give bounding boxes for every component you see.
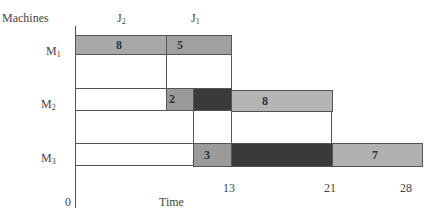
task-duration: 3 (204, 148, 210, 163)
task-duration: 8 (262, 94, 268, 109)
connector-line (193, 111, 194, 143)
blocked-m3 (231, 143, 333, 167)
task-m3-j1: 3 (193, 143, 232, 167)
task-duration: 7 (372, 148, 378, 163)
task-duration: 8 (116, 38, 122, 53)
time-tick-28: 28 (400, 181, 412, 196)
task-m2-j1: 2 (166, 88, 194, 111)
x-axis-title: Time (159, 195, 184, 210)
time-tick-13: 13 (223, 181, 235, 196)
time-tick-21: 21 (324, 181, 336, 196)
column-label-j1: J1 (191, 11, 200, 26)
machine-label-m2: M2 (41, 97, 56, 112)
task-m1-j2: 8 (75, 35, 167, 55)
column-label-j2: J2 (117, 11, 126, 26)
connector-line (231, 55, 232, 88)
machine-label-m1: M1 (46, 44, 61, 59)
connector-line (166, 55, 167, 88)
task-m1-j1: 5 (166, 35, 232, 55)
idle-m3 (75, 143, 194, 166)
task-duration: 2 (169, 92, 175, 107)
idle-m2 (75, 88, 167, 111)
machine-label-m3: M3 (41, 151, 56, 166)
y-axis-title: Machines (2, 11, 49, 26)
task-m3-j2: 7 (332, 143, 423, 167)
origin-label: 0 (65, 195, 71, 210)
connector-line (231, 111, 232, 143)
connector-line (331, 111, 332, 143)
blocked-m2 (193, 88, 232, 111)
task-m2-j2: 8 (231, 90, 333, 112)
task-duration: 5 (177, 38, 183, 53)
